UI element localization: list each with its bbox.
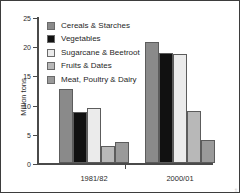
x-tick-mark bbox=[125, 165, 126, 169]
chart-legend: Cereals & StarchesVegetablesSugarcane & … bbox=[47, 19, 140, 87]
y-tick-label: 0 bbox=[27, 161, 31, 168]
legend-item[interactable]: Fruits & Dates bbox=[47, 60, 140, 74]
y-tick-mark bbox=[33, 18, 37, 19]
bar bbox=[187, 111, 201, 163]
legend-item[interactable]: Cereals & Starches bbox=[47, 19, 140, 33]
legend-label: Vegetables bbox=[61, 35, 101, 43]
legend-label: Sugarcane & Beetroot bbox=[61, 49, 140, 57]
bar bbox=[173, 54, 187, 163]
bar bbox=[73, 112, 87, 163]
bar bbox=[159, 53, 173, 163]
source-credit: Source: State Information Service bbox=[233, 188, 238, 193]
bar-group bbox=[145, 17, 215, 163]
bar bbox=[145, 42, 159, 163]
y-tick-label: 25 bbox=[23, 15, 31, 22]
bar bbox=[59, 89, 73, 163]
x-tick-label: 1981/82 bbox=[80, 174, 107, 183]
y-tick-mark bbox=[33, 106, 37, 107]
bar bbox=[101, 146, 115, 163]
x-tick-label: 2000/01 bbox=[166, 174, 193, 183]
legend-swatch bbox=[47, 62, 55, 70]
legend-label: Meat, Poultry & Dairy bbox=[61, 76, 137, 84]
y-tick-label: 5 bbox=[27, 131, 31, 138]
legend-label: Fruits & Dates bbox=[61, 62, 112, 70]
y-tick-mark bbox=[33, 47, 37, 48]
legend-swatch bbox=[47, 35, 55, 43]
legend-item[interactable]: Vegetables bbox=[47, 33, 140, 47]
y-tick-label: 20 bbox=[23, 44, 31, 51]
legend-swatch bbox=[47, 49, 55, 57]
bar bbox=[115, 142, 129, 163]
legend-item[interactable]: Meat, Poultry & Dairy bbox=[47, 73, 140, 87]
y-axis-label: Million tons bbox=[19, 78, 28, 116]
y-tick-mark bbox=[33, 135, 37, 136]
y-tick-mark bbox=[33, 164, 37, 165]
y-tick-mark bbox=[33, 76, 37, 77]
legend-item[interactable]: Sugarcane & Beetroot bbox=[47, 46, 140, 60]
y-axis-line bbox=[37, 17, 39, 165]
chart-container: 0510152025 1981/822000/01 Million tons C… bbox=[0, 0, 240, 193]
bar bbox=[87, 108, 101, 163]
bar bbox=[201, 140, 215, 163]
legend-swatch bbox=[47, 76, 55, 84]
legend-label: Cereals & Starches bbox=[61, 22, 130, 30]
legend-swatch bbox=[47, 22, 55, 30]
